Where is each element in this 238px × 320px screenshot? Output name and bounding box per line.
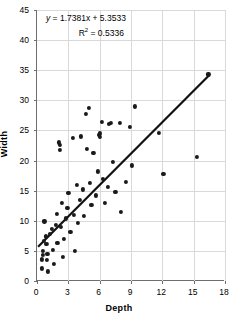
scatter-chart: y = 1.7381x + 5.3533 R2 = 0.5336 Width D…: [0, 0, 238, 320]
trendline: [0, 0, 238, 320]
